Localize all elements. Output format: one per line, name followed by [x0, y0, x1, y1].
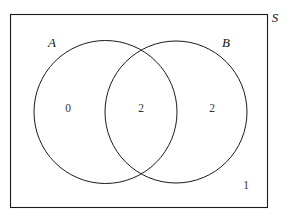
set-a-label: A: [47, 35, 56, 50]
region-count-intersection: 2: [138, 102, 144, 114]
region-count-outside: 1: [243, 179, 249, 191]
region-count-a-only: 0: [65, 102, 71, 114]
region-count-b-only: 2: [209, 102, 215, 114]
universal-set-label: S: [272, 10, 279, 25]
venn-diagram-canvas: S A B 0 2 2 1: [0, 0, 290, 219]
venn-diagram: S A B 0 2 2 1: [0, 0, 290, 219]
set-b-label: B: [222, 35, 230, 50]
